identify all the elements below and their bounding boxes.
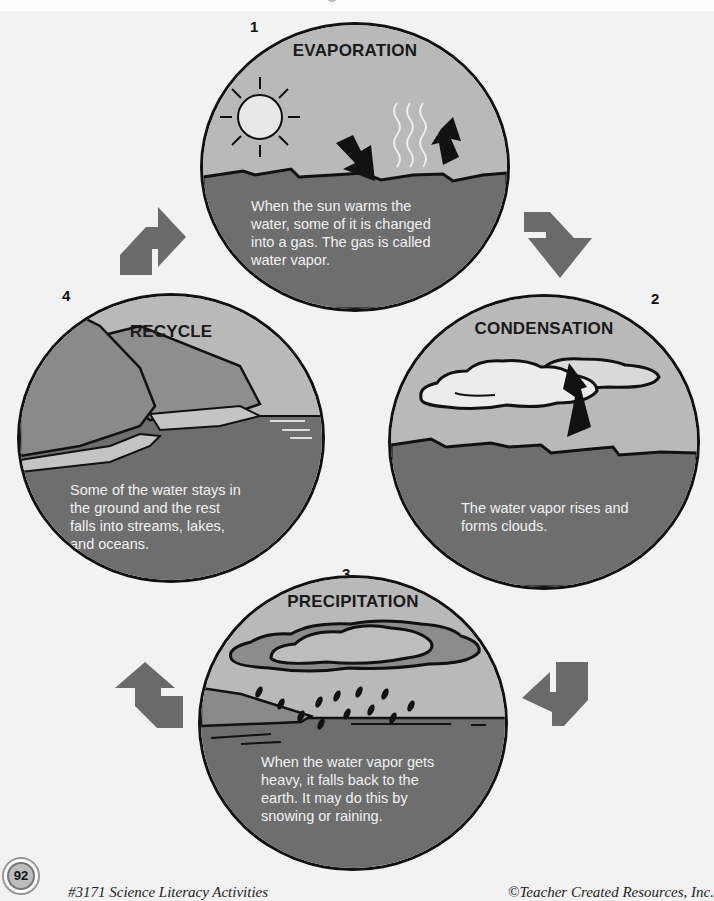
footer-book-title: #3171 Science Literacy Activities xyxy=(68,884,268,901)
page-number-badge: 92 xyxy=(2,857,40,895)
stage-title: CONDENSATION xyxy=(391,319,697,339)
stage-condensation: CONDENSATION The water vapor rises and f… xyxy=(388,294,700,590)
stage-evaporation: EVAPORATION When the sun warms the water… xyxy=(200,22,510,312)
stage-recycle: RECYCLE Some of the water stays in the g… xyxy=(17,293,325,583)
header-fragment xyxy=(327,0,337,2)
condensation-scene xyxy=(391,297,697,587)
footer-copyright: ©Teacher Created Resources, Inc. xyxy=(508,884,714,901)
stage-description: When the sun warms the water, some of it… xyxy=(251,197,431,269)
stage-precipitation: PRECIPITATION When the water vapor gets … xyxy=(198,575,508,871)
arrow-down-right-icon xyxy=(522,210,594,280)
page-number: 92 xyxy=(7,862,35,890)
arrow-down-left-icon xyxy=(520,660,590,732)
stage-title: RECYCLE xyxy=(20,322,322,342)
top-page-strip xyxy=(0,0,714,11)
stage-title: EVAPORATION xyxy=(203,41,507,61)
stage-description: When the water vapor gets heavy, it fall… xyxy=(261,753,434,825)
sun-icon xyxy=(220,77,300,157)
arrow-up-left-icon xyxy=(113,660,185,730)
stage-description: Some of the water stays in the ground an… xyxy=(70,481,241,553)
stage-title: PRECIPITATION xyxy=(201,592,505,612)
stage-description: The water vapor rises and forms clouds. xyxy=(461,499,629,535)
arrow-up-right-icon xyxy=(118,205,188,277)
